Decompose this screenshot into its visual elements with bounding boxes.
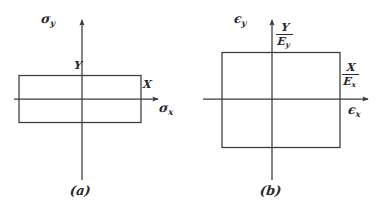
panel-a-horizontal-axis-label: σx xyxy=(158,102,174,116)
panel-b-vertical-limit-label: Y Ey xyxy=(275,22,295,49)
panel-b-yield-envelope xyxy=(222,53,340,148)
panel-a-vertical-limit-label: Y xyxy=(73,60,82,71)
figure-root: σy Y X σx (a) ϵy Y Ey X Ex ϵx (b) xyxy=(0,0,388,208)
panel-a-caption: (a) xyxy=(69,184,91,197)
panel-b-horizontal-limit-label: X Ex xyxy=(341,62,361,89)
panel-a-horizontal-limit-label: X xyxy=(142,79,152,90)
panel-b-caption: (b) xyxy=(259,184,282,197)
panel-a-vertical-axis-label: σy xyxy=(40,13,56,27)
panel-a-axes xyxy=(14,20,158,180)
figure-canvas xyxy=(0,0,388,208)
panel-b-vertical-axis-label: ϵy xyxy=(233,13,247,27)
panel-b-horizontal-axis-label: ϵx xyxy=(347,104,361,118)
